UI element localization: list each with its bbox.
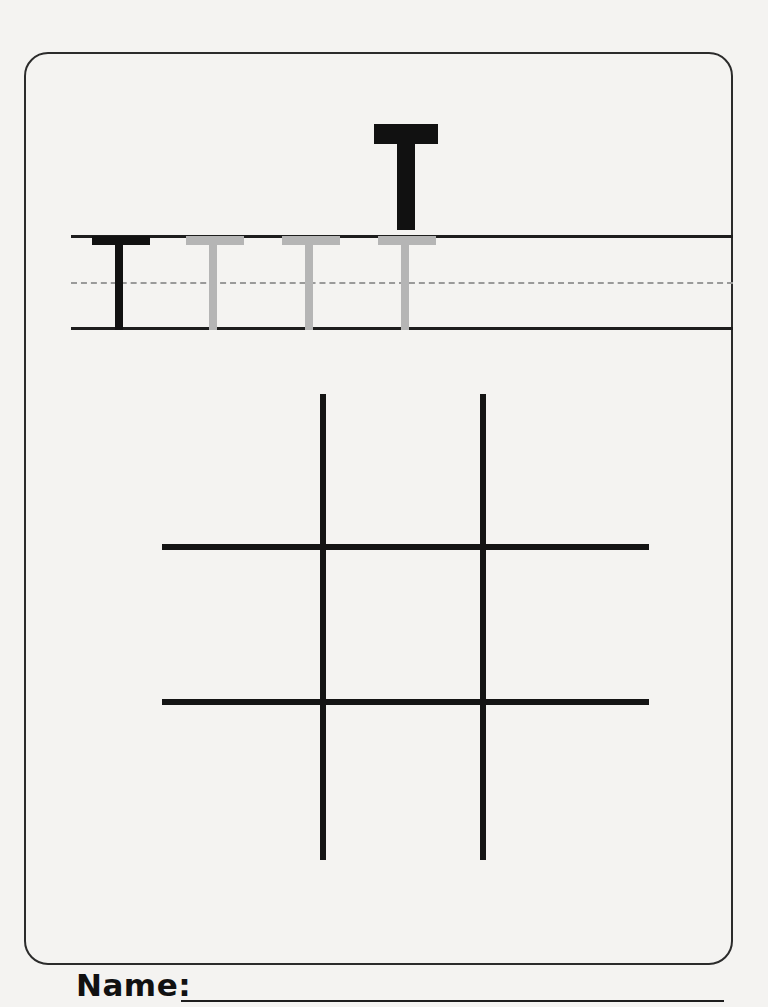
trace-letter-3-stem bbox=[401, 236, 409, 330]
tracing-band bbox=[71, 235, 733, 330]
practice-grid bbox=[162, 394, 649, 860]
trace-letter-t-1[interactable] bbox=[186, 236, 244, 330]
grid-vertical-line-1 bbox=[320, 394, 326, 860]
grid-horizontal-line-1 bbox=[162, 544, 649, 550]
worksheet-card: Name: bbox=[24, 52, 733, 965]
example-letter-stem bbox=[115, 236, 123, 330]
name-input-line[interactable] bbox=[181, 1000, 724, 1002]
grid-vertical-line-2 bbox=[480, 394, 486, 860]
model-letter-stem bbox=[397, 143, 415, 230]
grid-horizontal-line-2 bbox=[162, 699, 649, 705]
name-row: Name: bbox=[76, 967, 726, 1007]
trace-letter-1-stem bbox=[209, 236, 217, 330]
worksheet-page: Name: bbox=[0, 0, 768, 1007]
trace-letter-2-stem bbox=[305, 236, 313, 330]
name-label: Name: bbox=[76, 967, 191, 1003]
trace-letter-t-2[interactable] bbox=[282, 236, 340, 330]
example-letter-t bbox=[92, 236, 150, 330]
model-letter-t bbox=[374, 124, 438, 230]
trace-letter-t-3[interactable] bbox=[378, 236, 436, 330]
model-letter-crossbar bbox=[374, 124, 438, 144]
